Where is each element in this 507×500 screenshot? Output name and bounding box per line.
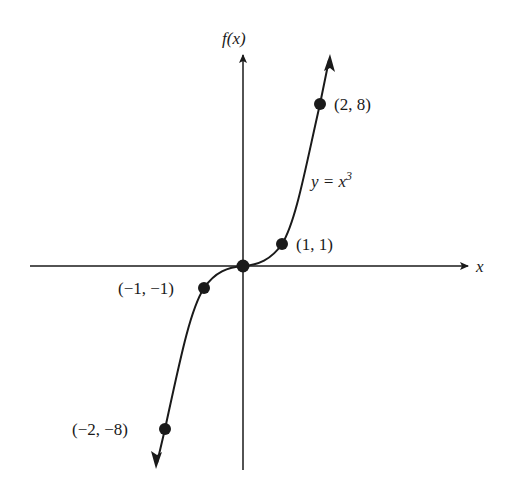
curve-label-exponent: 3 [345,169,352,183]
curve-arrow-top-icon [324,54,335,72]
cubic-function-graph: f(x) x (2, 8) (1, 1) (−1, −1) (−2, −8) y… [0,0,507,500]
point-origin [237,260,250,273]
x-axis-label: x [475,257,484,276]
curve-arrow-bottom-icon [151,451,162,469]
curve-label: y = x3 [309,169,352,191]
point-label-2-8: (2, 8) [334,95,371,114]
point-m2-m8 [159,423,171,435]
point-label-m1-m1: (−1, −1) [118,279,174,298]
y-axis-label: f(x) [222,29,246,48]
curve-label-base: y = x [309,172,347,191]
point-m1-m1 [198,282,210,294]
point-1-1 [276,238,288,250]
point-2-8 [314,98,326,110]
point-label-1-1: (1, 1) [296,235,333,254]
point-label-m2-m8: (−2, −8) [72,420,128,439]
